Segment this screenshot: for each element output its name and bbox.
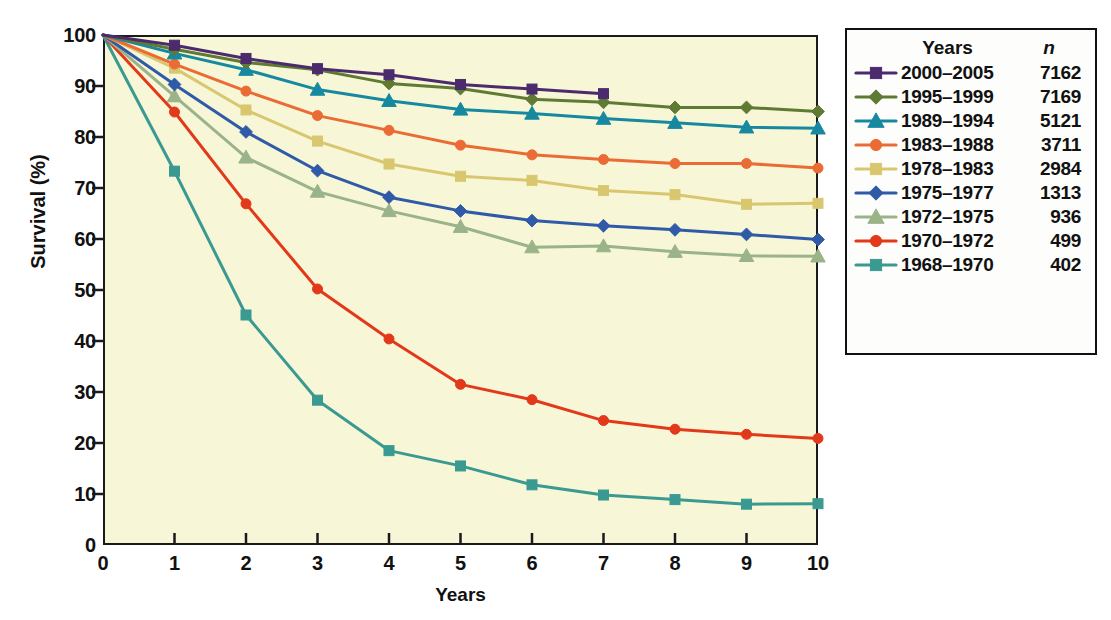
legend-count: 5121 [1013,109,1085,133]
x-tick-label: 3 [298,552,338,575]
legend-swatch-triangle-icon [853,109,901,133]
x-tick-label: 1 [155,552,195,575]
legend-label: 1972–1975 [901,205,1013,229]
x-tick-label: 10 [798,552,838,575]
legend-row[interactable]: 1989–19945121 [853,109,1085,133]
legend-swatch-square-icon [853,157,901,181]
legend-count: 7162 [1013,61,1085,85]
legend-swatch-circle-icon [853,133,901,157]
y-tick-label: 80 [50,126,96,149]
legend-count: 499 [1013,229,1085,253]
legend-swatch-triangle-icon [853,205,901,229]
legend-row[interactable]: 1972–1975936 [853,205,1085,229]
legend-count: 402 [1013,253,1085,277]
legend-swatch-circle-icon [853,229,901,253]
y-tick-label: 20 [50,432,96,455]
legend-count: 2984 [1013,157,1085,181]
legend-row[interactable]: 1978–19832984 [853,157,1085,181]
legend-label: 2000–2005 [901,61,1013,85]
y-tick-label: 60 [50,228,96,251]
y-tick-label: 40 [50,330,96,353]
chart-figure: 0102030405060708090100 Survival (%) 0123… [0,0,1111,620]
y-tick-label: 70 [50,177,96,200]
legend-header-years: Years [853,36,1013,61]
legend-row[interactable]: 1983–19883711 [853,133,1085,157]
y-tick-label: 30 [50,381,96,404]
x-tick-label: 6 [512,552,552,575]
legend-count: 3711 [1013,133,1085,157]
legend-header-row: Years n [853,36,1085,61]
y-tick-label: 50 [50,279,96,302]
x-tick-label: 9 [727,552,767,575]
legend-label: 1983–1988 [901,133,1013,157]
legend-table: Years n 2000–200571621995–199971691989–1… [853,36,1085,277]
legend-swatch-diamond-icon [853,85,901,109]
legend-row[interactable]: 1975–19771313 [853,181,1085,205]
legend-label: 1989–1994 [901,109,1013,133]
x-tick-label: 0 [83,552,123,575]
legend-header-n: n [1013,36,1085,61]
x-tick-label: 5 [441,552,481,575]
x-tick-label: 8 [655,552,695,575]
y-tick-label: 100 [50,24,96,47]
legend-swatch-square-icon [853,61,901,85]
x-tick-label: 7 [584,552,624,575]
x-tick-label: 2 [226,552,266,575]
legend-row[interactable]: 1995–19997169 [853,85,1085,109]
legend-count: 936 [1013,205,1085,229]
legend-body: 2000–200571621995–199971691989–199451211… [853,61,1085,277]
legend: Years n 2000–200571621995–199971691989–1… [845,28,1097,355]
plot-area [103,35,818,545]
y-tick-label: 10 [50,483,96,506]
legend-row[interactable]: 2000–20057162 [853,61,1085,85]
legend-label: 1970–1972 [901,229,1013,253]
legend-label: 1978–1983 [901,157,1013,181]
legend-label: 1968–1970 [901,253,1013,277]
x-tick-label: 4 [369,552,409,575]
legend-count: 7169 [1013,85,1085,109]
y-axis-label: Survival (%) [27,112,50,312]
legend-label: 1975–1977 [901,181,1013,205]
x-axis-label: Years [103,584,818,606]
legend-row[interactable]: 1970–1972499 [853,229,1085,253]
legend-count: 1313 [1013,181,1085,205]
legend-swatch-square-icon [853,253,901,277]
legend-label: 1995–1999 [901,85,1013,109]
y-tick-label: 90 [50,75,96,98]
legend-row[interactable]: 1968–1970402 [853,253,1085,277]
legend-swatch-diamond-icon [853,181,901,205]
